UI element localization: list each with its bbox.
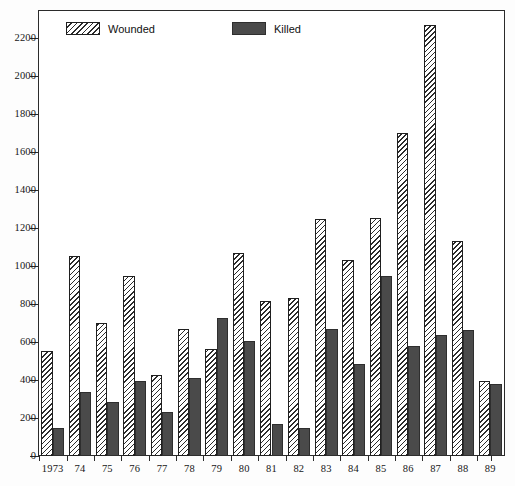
x-axis-tick [231,456,232,461]
bar-killed-80 [244,341,255,456]
bar-wounded-77 [151,375,162,456]
bar-wounded-80 [233,253,244,456]
bar-killed-1973 [53,428,64,457]
legend-label-killed: Killed [274,23,301,35]
x-axis-tick [149,456,150,461]
bar-chart: 0200400600800100012001400160018002000220… [0,0,515,486]
bar-wounded-89 [479,381,490,456]
legend-item-wounded: Wounded [66,22,155,35]
bar-killed-85 [381,276,392,456]
x-axis-tick [340,456,341,461]
bar-killed-88 [463,330,474,456]
bar-killed-79 [217,318,228,456]
bar-killed-77 [162,412,173,456]
x-axis-tick [477,456,478,461]
bar-killed-74 [80,392,91,456]
bar-wounded-85 [370,218,381,456]
bar-killed-83 [326,329,337,456]
x-axis-tick [67,456,68,461]
bar-wounded-1973 [41,351,52,456]
legend-label-wounded: Wounded [108,23,155,35]
bar-wounded-76 [123,276,134,456]
x-axis-tick [422,456,423,461]
x-axis-tick [286,456,287,461]
bar-killed-81 [272,424,283,456]
bar-killed-75 [107,402,118,456]
bar-wounded-75 [96,323,107,456]
bar-wounded-83 [315,219,326,457]
bar-killed-89 [490,384,501,456]
bar-wounded-88 [452,241,463,456]
x-axis-tick [121,456,122,461]
x-axis-tick [395,456,396,461]
bar-wounded-82 [288,298,299,456]
x-axis-tick [203,456,204,461]
x-axis-tick [176,456,177,461]
bar-killed-78 [189,378,200,456]
x-axis-tick [94,456,95,461]
bar-killed-84 [354,364,365,456]
legend-swatch-killed-icon [232,22,266,35]
bar-killed-82 [299,428,310,457]
bar-wounded-79 [205,349,216,456]
bar-wounded-78 [178,329,189,456]
x-axis-label-89: 89 [470,463,510,474]
bar-killed-76 [135,381,146,456]
bar-wounded-74 [69,256,80,456]
bar-wounded-84 [342,260,353,456]
bars-layer [0,0,515,486]
x-axis-tick [258,456,259,461]
bar-killed-87 [436,335,447,456]
x-axis-tick [313,456,314,461]
bar-wounded-87 [424,25,435,456]
bar-wounded-86 [397,133,408,456]
legend-swatch-wounded-icon [66,22,100,35]
x-axis-tick [491,456,492,461]
x-axis-tick [39,456,40,461]
bar-killed-86 [408,346,419,456]
x-axis-tick [368,456,369,461]
legend-item-killed: Killed [232,22,301,35]
x-axis-tick [450,456,451,461]
bar-wounded-81 [260,301,271,456]
